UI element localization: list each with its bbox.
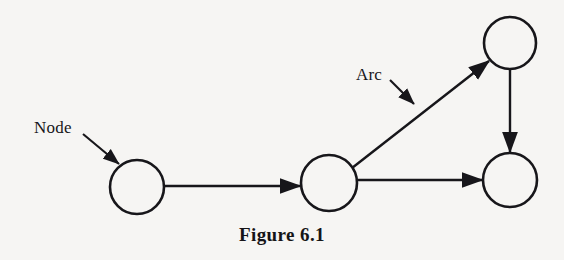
node-circle-1 <box>110 160 164 214</box>
node-circle-3 <box>484 17 536 69</box>
node-circle-4 <box>483 153 537 207</box>
node-circle-2 <box>301 155 357 211</box>
callout-label-arc: Arc <box>356 66 382 83</box>
callout-leader-node <box>83 134 119 164</box>
figure-caption: Figure 6.1 <box>0 224 564 246</box>
callout-leader-arc <box>390 80 414 104</box>
callout-label-node: Node <box>34 119 72 136</box>
graph-diagram <box>0 0 564 260</box>
figure-container: Node Arc Figure 6.1 <box>0 0 564 260</box>
